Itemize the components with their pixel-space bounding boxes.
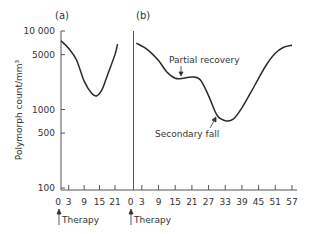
- x-tick-label: 3: [139, 197, 145, 207]
- y-tick-label: 1000: [32, 105, 55, 115]
- x-tick-label: 9: [81, 197, 87, 207]
- annotation-partial-recovery: Partial recovery: [169, 55, 240, 65]
- x-tick-label: 3: [66, 197, 72, 207]
- x-tick-label: 21: [186, 197, 197, 207]
- x-tick-label: 15: [94, 197, 105, 207]
- arrow-icon: [179, 66, 183, 76]
- arrow-icon: [210, 117, 216, 128]
- x-tick-label: 57: [286, 197, 297, 207]
- y-axis-label: Polymorph count/mm³: [14, 59, 24, 160]
- x-tick-label: 0: [128, 197, 134, 207]
- chart: (a) (b) Polymorph count/mm³ 10 000500010…: [0, 0, 316, 234]
- curve-panel-a: [61, 41, 118, 96]
- panel-b-label: (b): [136, 10, 150, 21]
- panel-a-label: (a): [55, 10, 69, 21]
- y-tick-label: 100: [38, 183, 55, 193]
- x-tick-label: 45: [253, 197, 264, 207]
- annotation-secondary-fall: Secondary fall: [155, 129, 219, 139]
- x-tick-label: 39: [236, 197, 248, 207]
- x-tick-label: 33: [220, 197, 231, 207]
- therapy-label-b: Therapy: [133, 215, 172, 225]
- x-tick-label: 21: [109, 197, 120, 207]
- therapy-label-a: Therapy: [61, 215, 100, 225]
- y-tick-label: 10 000: [24, 26, 56, 36]
- x-ticks: 03915210391521273339455157: [55, 185, 298, 207]
- y-tick-label: 500: [38, 128, 55, 138]
- y-tick-label: 5000: [32, 50, 55, 60]
- y-ticks: 10 00050001000500100: [24, 26, 66, 193]
- x-tick-label: 9: [156, 197, 162, 207]
- x-tick-label: 15: [169, 197, 180, 207]
- x-tick-label: 51: [270, 197, 281, 207]
- x-tick-label: 0: [55, 197, 61, 207]
- x-tick-label: 27: [203, 197, 214, 207]
